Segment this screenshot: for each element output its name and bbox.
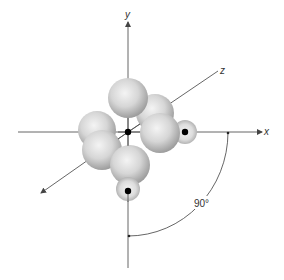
angle-label: 90°: [194, 198, 209, 209]
z-axis-label: z: [219, 65, 225, 76]
angle-annotation: 90°: [128, 132, 230, 238]
arc-end-tick-y: [128, 235, 131, 238]
diagram-canvas: 90° y x z: [0, 0, 284, 280]
y-axis-label: y: [124, 9, 131, 20]
central-nucleus: [125, 129, 131, 135]
arc-end-tick-x: [227, 132, 230, 135]
angle-arc: [128, 132, 228, 236]
axes: [18, 22, 262, 268]
right-nucleus: [182, 129, 188, 135]
large-sphere-front-right: [140, 113, 180, 153]
x-axis-label: x: [263, 126, 270, 137]
bottom-nucleus: [125, 188, 131, 194]
electron-domains: [78, 78, 197, 201]
large-sphere-top: [108, 78, 148, 118]
molecular-geometry-diagram: 90° y x z: [0, 0, 284, 280]
